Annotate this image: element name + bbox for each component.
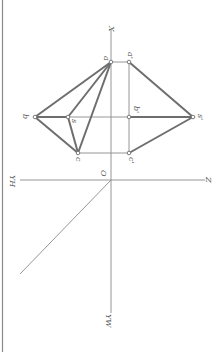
label-a: a (102, 56, 111, 61)
edge-cprime-sprime (129, 117, 193, 153)
label-yh-axis: YH (8, 175, 17, 188)
vertex-markers (33, 60, 195, 155)
label-z-axis: Z (204, 176, 213, 183)
vertex-cprime (127, 151, 131, 155)
miter-line-45 (20, 180, 111, 274)
label-sprime: s' (196, 114, 205, 120)
edge-a-b (35, 62, 111, 117)
vertex-bprime (127, 115, 131, 119)
edge-a-c (78, 62, 111, 153)
label-cprime: c' (127, 157, 136, 164)
label-b: b (21, 114, 30, 119)
vertex-s (66, 115, 70, 119)
label-yw-axis: YW (104, 314, 113, 328)
top-view (35, 62, 111, 153)
projection-diagram: X a a' b' b s s' c c' O Z YH YW (0, 0, 218, 352)
label-s: s (70, 119, 79, 123)
vertex-sprime (191, 115, 195, 119)
label-c: c (74, 157, 83, 162)
label-origin: O (99, 170, 108, 177)
vertex-aprime (127, 60, 131, 64)
vertex-b (33, 115, 37, 119)
vertex-c (76, 151, 80, 155)
label-bprime: b' (132, 106, 141, 113)
label-aprime: a' (126, 52, 135, 59)
label-x-axis: X (107, 25, 116, 32)
